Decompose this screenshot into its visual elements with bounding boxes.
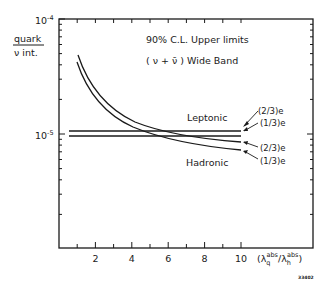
figure-id: 33402: [298, 275, 314, 280]
x-tick-label-2: 2: [92, 253, 98, 264]
arrow-heads: [243, 121, 249, 154]
y-tick-label-1e-5: 10-5: [35, 129, 54, 141]
leptonic-1-3e-label: (1/3)e: [260, 118, 286, 128]
y-ticks-left: [59, 19, 65, 214]
x-axis-label: (λqabs/λhabs): [257, 251, 302, 267]
leptonic-label: Leptonic: [187, 112, 227, 123]
chart-subtitle: ( ν + ν̄ ) Wide Band: [146, 55, 238, 66]
plot-frame: [59, 19, 313, 248]
y-tick-label-1e-4: 10-4: [35, 14, 54, 26]
chart-title: 90% C.L. Upper limits: [146, 34, 249, 45]
hadronic-2-3e-label: (2/3)e: [260, 143, 286, 153]
x-tick-label-6: 6: [165, 253, 171, 264]
x-ticks-bottom: [77, 242, 241, 248]
y-axis-label-denominator: ν int.: [14, 47, 38, 58]
leptonic-2-3e-label: (2/3)e: [258, 106, 284, 116]
hadronic-1-3e-curve: [77, 62, 241, 150]
hadronic-label: Hadronic: [186, 157, 228, 168]
x-tick-label-4: 4: [129, 253, 135, 264]
x-tick-label-10: 10: [235, 253, 247, 264]
y-axis-label-numerator: quark: [14, 33, 42, 44]
hadronic-1-3e-label: (1/3)e: [260, 156, 286, 166]
hadronic-2-3e-curve: [78, 55, 241, 142]
chart: 10-4 10-5 quark ν int. 90% C.L. Upper li…: [0, 0, 328, 289]
y-ticks-right: [307, 24, 313, 214]
x-tick-label-8: 8: [202, 253, 208, 264]
